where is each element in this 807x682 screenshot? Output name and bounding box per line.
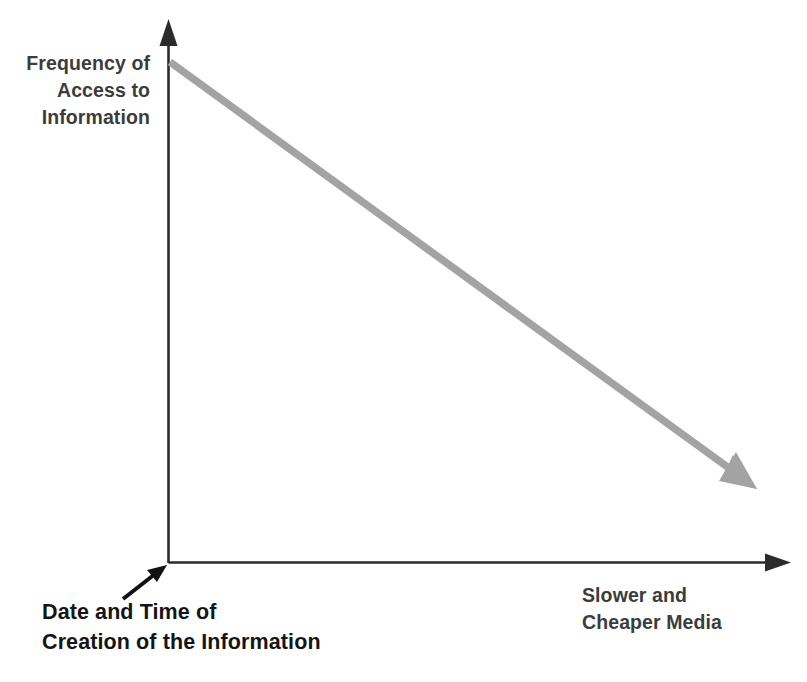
y-axis-label: Frequency of Access to Information — [0, 50, 150, 131]
x-axis-label: Slower and Cheaper Media — [582, 582, 802, 636]
arrow-up-icon — [160, 19, 178, 46]
trend-line — [170, 62, 733, 471]
chart-canvas: Frequency of Access to Information Slowe… — [0, 0, 807, 682]
origin-pointer-shaft — [123, 574, 155, 599]
arrow-right-icon — [765, 554, 791, 572]
origin-annotation-label: Date and Time of Creation of the Informa… — [42, 597, 472, 657]
trend-arrowhead-fill — [719, 452, 757, 489]
